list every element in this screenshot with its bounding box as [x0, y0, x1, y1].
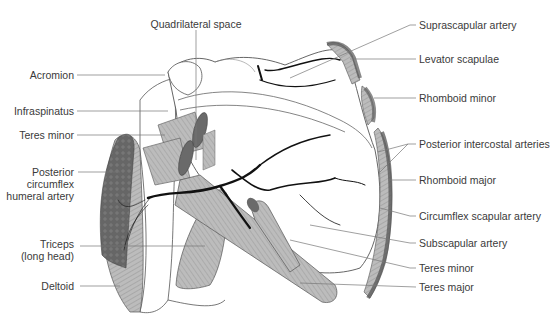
label-acromion: Acromion: [2, 69, 74, 81]
label-quadrilateral-space: Quadrilateral space: [146, 18, 246, 30]
label-triceps-long-head: Triceps (long head): [2, 238, 74, 262]
label-subscapular-artery: Subscapular artery: [419, 237, 507, 249]
label-levator-scapulae: Levator scapulae: [419, 53, 499, 65]
label-teres-minor-left: Teres minor: [2, 129, 74, 141]
label-suprascapular-artery: Suprascapular artery: [419, 19, 516, 31]
deltoid-muscle: [100, 134, 143, 312]
label-deltoid: Deltoid: [2, 280, 74, 292]
label-circumflex-scapular-artery: Circumflex scapular artery: [419, 210, 541, 222]
label-teres-minor-right: Teres minor: [419, 262, 474, 274]
label-rhomboid-minor: Rhomboid minor: [419, 92, 496, 104]
label-infraspinatus: Infraspinatus: [2, 105, 74, 117]
label-rhomboid-major: Rhomboid major: [419, 174, 496, 186]
label-teres-major: Teres major: [419, 281, 474, 293]
label-posterior-intercostal-arteries: Posterior intercostal arteries: [419, 138, 550, 150]
label-posterior-circumflex-humeral-artery: Posterior circumflex humeral artery: [2, 166, 74, 202]
